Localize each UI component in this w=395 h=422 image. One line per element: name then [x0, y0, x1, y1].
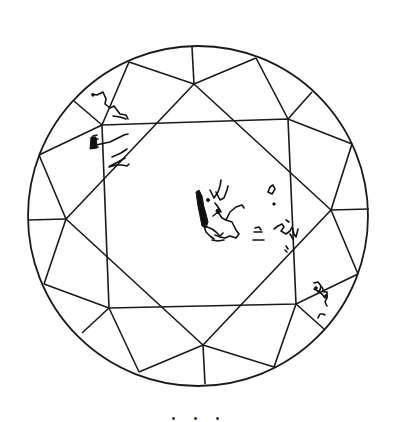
upper-girdle-facet-lines: [39, 58, 358, 372]
girdle-outline: [28, 46, 368, 386]
diagram-caption: · · ·: [0, 408, 395, 422]
inclusion-feather-lower-right: [314, 282, 327, 318]
inclusion-feather-upper-left: [90, 92, 129, 167]
diamond-plot-diagram: [0, 0, 395, 422]
inclusion-cloud-center: [196, 180, 244, 241]
bezel-facet-lines: [28, 47, 369, 384]
